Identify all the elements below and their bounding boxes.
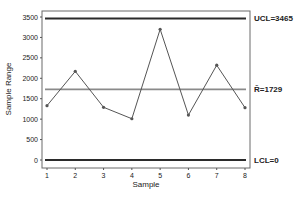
data-point (102, 106, 105, 109)
data-point (159, 28, 162, 31)
range-line (47, 29, 245, 118)
data-point (130, 117, 133, 120)
x-tick-label: 5 (158, 172, 162, 179)
data-point (74, 70, 77, 73)
y-axis-ticks: 0500100015002000250030003500 (22, 14, 42, 164)
data-point (187, 113, 190, 116)
data-series (45, 28, 246, 121)
x-tick-label: 6 (186, 172, 190, 179)
y-tick-label: 2500 (22, 54, 38, 61)
x-tick-label: 1 (45, 172, 49, 179)
control-chart: 0500100015002000250030003500 12345678 UC… (0, 0, 301, 199)
y-tick-label: 1000 (22, 116, 38, 123)
y-tick-label: 1500 (22, 95, 38, 102)
lcl-label: LCL=0 (254, 156, 279, 165)
y-axis-label: Sample Range (4, 62, 13, 115)
x-tick-label: 4 (130, 172, 134, 179)
x-tick-label: 2 (73, 172, 77, 179)
y-tick-label: 0 (34, 157, 38, 164)
x-axis-label: Sample (132, 180, 160, 189)
control-limit-lines (45, 18, 246, 160)
x-axis-ticks: 12345678 (45, 168, 247, 179)
y-tick-label: 2000 (22, 75, 38, 82)
center-label: R̄=1729 (254, 85, 283, 94)
data-point (45, 104, 48, 107)
x-tick-label: 7 (215, 172, 219, 179)
y-tick-label: 500 (26, 136, 38, 143)
y-tick-label: 3000 (22, 34, 38, 41)
ucl-label: UCL=3465 (254, 14, 293, 23)
x-tick-label: 3 (102, 172, 106, 179)
data-point (215, 64, 218, 67)
y-tick-label: 3500 (22, 14, 38, 21)
x-tick-label: 8 (243, 172, 247, 179)
data-point (243, 106, 246, 109)
